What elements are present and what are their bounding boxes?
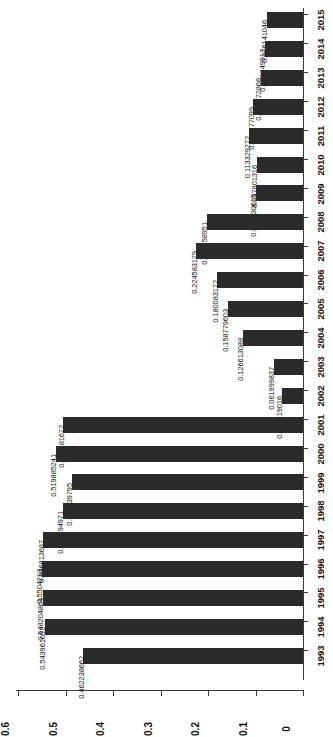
category-label-2000: 2000 xyxy=(315,443,326,464)
value-tick-label: 0.1 xyxy=(237,722,248,736)
bar xyxy=(56,446,303,462)
bar xyxy=(282,388,303,404)
value-tick xyxy=(256,691,257,696)
category-label-2009: 2009 xyxy=(315,183,326,204)
bar-row: 0.2245831792007 xyxy=(0,237,333,265)
bar-row: 0.0619998372003 xyxy=(0,353,333,381)
category-tick xyxy=(304,592,308,593)
category-tick xyxy=(304,448,308,449)
category-label-2013: 2013 xyxy=(315,67,326,88)
category-tick xyxy=(304,535,308,536)
bar-row: 0.0997306152009 xyxy=(0,179,333,207)
category-tick xyxy=(304,477,308,478)
bar xyxy=(207,214,303,230)
category-tick xyxy=(304,101,308,102)
category-tick xyxy=(304,650,308,651)
bar xyxy=(274,359,303,375)
bar xyxy=(72,474,303,490)
bar-row: 0.5055949711998 xyxy=(0,497,333,525)
bar xyxy=(42,561,303,577)
category-tick xyxy=(304,361,308,362)
bar-row: 0.2021589512008 xyxy=(0,208,333,236)
bar xyxy=(261,70,303,86)
category-label-1999: 1999 xyxy=(315,472,326,493)
category-label-2012: 2012 xyxy=(315,96,326,117)
bar-row: 0.1800831722006 xyxy=(0,266,333,294)
value-tick-label: 0 xyxy=(281,726,292,732)
category-tick xyxy=(304,564,308,565)
bar-row: 0.1133292722011 xyxy=(0,122,333,150)
category-tick xyxy=(304,506,308,507)
bar-row: 0.0442190162002 xyxy=(0,382,333,410)
bar xyxy=(243,330,303,346)
value-tick xyxy=(66,691,67,696)
bar-row: 0.0798499122014 xyxy=(0,35,333,63)
plot-area: 0.07614104620150.07984991220140.08827286… xyxy=(0,0,333,737)
category-label-1998: 1998 xyxy=(315,501,326,522)
value-tick-label: 0.2 xyxy=(190,722,201,736)
bar-row: 0.1266130882004 xyxy=(0,324,333,352)
bar xyxy=(196,243,303,259)
category-label-2015: 2015 xyxy=(315,10,326,31)
category-tick xyxy=(304,130,308,131)
bar-chart-figure: 0.07614104620150.07984991220140.08827286… xyxy=(0,0,333,737)
category-label-2006: 2006 xyxy=(315,270,326,291)
bar-row: 0.4622386621993 xyxy=(0,642,333,670)
category-tick xyxy=(304,72,308,73)
bar xyxy=(217,272,303,288)
bar-row: 0.5042816722001 xyxy=(0,411,333,439)
category-label-2010: 2010 xyxy=(315,154,326,175)
category-label-1994: 1994 xyxy=(315,616,326,637)
bar-row: 0.55042181996 xyxy=(0,555,333,583)
bar xyxy=(257,157,303,173)
bar-row: 0.5439610521994 xyxy=(0,613,333,641)
category-label-2003: 2003 xyxy=(315,356,326,377)
category-tick xyxy=(304,246,308,247)
category-tick xyxy=(304,14,308,15)
category-tick xyxy=(304,390,308,391)
category-tick xyxy=(304,303,308,304)
bar-row: 0.0761410462015 xyxy=(0,6,333,34)
bar-value-label: 0.462238662 xyxy=(77,656,86,699)
value-tick xyxy=(113,691,114,696)
bar xyxy=(253,99,303,115)
bar xyxy=(249,128,303,144)
bar xyxy=(228,301,303,317)
category-label-1997: 1997 xyxy=(315,530,326,551)
category-tick xyxy=(304,217,308,218)
category-tick xyxy=(304,159,308,160)
category-tick xyxy=(304,621,308,622)
bar xyxy=(43,590,303,606)
category-label-2008: 2008 xyxy=(315,212,326,233)
bar-row: 0.1042770992012 xyxy=(0,93,333,121)
bar xyxy=(63,503,303,519)
bar xyxy=(265,41,303,57)
category-label-2005: 2005 xyxy=(315,299,326,320)
category-label-2011: 2011 xyxy=(315,125,326,146)
value-tick-label: 0.5 xyxy=(47,722,58,736)
category-tick xyxy=(304,275,308,276)
value-tick-label: 0.6 xyxy=(0,722,11,736)
bar xyxy=(256,185,303,201)
bar-row: 0.5482048641995 xyxy=(0,584,333,612)
value-tick-label: 0.3 xyxy=(142,722,153,736)
category-label-2007: 2007 xyxy=(315,241,326,262)
bar xyxy=(267,12,303,28)
category-label-2014: 2014 xyxy=(315,38,326,59)
value-tick xyxy=(208,691,209,696)
category-tick xyxy=(304,419,308,420)
value-tick xyxy=(303,691,304,696)
value-tick xyxy=(161,691,162,696)
category-tick xyxy=(304,188,308,189)
category-label-2004: 2004 xyxy=(315,327,326,348)
category-label-2002: 2002 xyxy=(315,385,326,406)
category-label-1996: 1996 xyxy=(315,559,326,580)
value-tick xyxy=(18,691,19,696)
bar xyxy=(45,619,303,635)
category-label-1995: 1995 xyxy=(315,588,326,609)
category-tick xyxy=(304,43,308,44)
bar-row: 0.4871397951999 xyxy=(0,468,333,496)
bar xyxy=(43,532,303,548)
bar-row: 0.5468136871997 xyxy=(0,526,333,554)
bar-row: 0.1587796032005 xyxy=(0,295,333,323)
